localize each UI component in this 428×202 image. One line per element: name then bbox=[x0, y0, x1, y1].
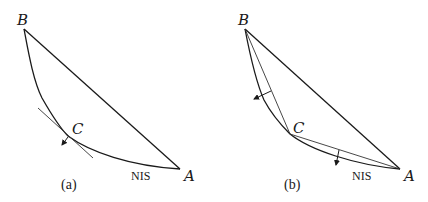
caption-a: (a) bbox=[61, 177, 77, 193]
label-b: B bbox=[16, 11, 28, 29]
line-b-a bbox=[245, 29, 400, 169]
line-b-a bbox=[24, 29, 180, 169]
label-b: B bbox=[237, 11, 249, 29]
label-c: C bbox=[293, 119, 305, 137]
diagram-canvas: B C A NIS (a) B C A NIS (b) bbox=[0, 0, 428, 202]
panel-a: B C A NIS (a) bbox=[16, 11, 195, 193]
caption-b: (b) bbox=[284, 177, 301, 193]
tangent-line bbox=[38, 108, 93, 158]
label-a: A bbox=[402, 167, 415, 185]
label-nis: NIS bbox=[131, 169, 150, 183]
chord-b-c bbox=[245, 29, 290, 134]
normal-arrow bbox=[62, 137, 68, 145]
label-c: C bbox=[72, 120, 84, 138]
label-nis: NIS bbox=[352, 169, 371, 183]
chord-c-a bbox=[290, 134, 400, 169]
panel-b: B C A NIS (b) bbox=[237, 11, 415, 193]
label-a: A bbox=[182, 167, 195, 185]
